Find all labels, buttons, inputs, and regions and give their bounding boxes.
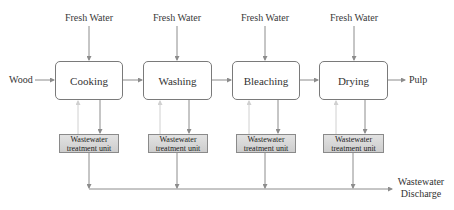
process-label: Cooking bbox=[70, 75, 108, 87]
process-label: Washing bbox=[158, 75, 196, 87]
pulp-output-label: Pulp bbox=[409, 74, 427, 85]
treatment-unit-drying: Wastewater treatment unit bbox=[323, 134, 384, 153]
discharge-label-line1: Wastewater bbox=[397, 176, 445, 188]
process-bleaching: Bleaching bbox=[232, 61, 300, 100]
treatment-unit-line2: treatment unit bbox=[149, 145, 207, 154]
process-label: Bleaching bbox=[244, 75, 289, 87]
treatment-unit-bleaching: Wastewater treatment unit bbox=[236, 134, 296, 153]
process-cooking: Cooking bbox=[55, 61, 123, 100]
treatment-unit-line2: treatment unit bbox=[60, 145, 118, 154]
wastewater-discharge-label: Wastewater Discharge bbox=[397, 176, 445, 200]
flow-connectors bbox=[0, 0, 454, 210]
treatment-unit-washing: Wastewater treatment unit bbox=[148, 134, 208, 153]
process-label: Drying bbox=[338, 75, 369, 87]
process-drying: Drying bbox=[319, 61, 388, 100]
fresh-water-label-cooking: Fresh Water bbox=[65, 12, 113, 23]
fresh-water-label-drying: Fresh Water bbox=[330, 12, 378, 23]
wood-input-label: Wood bbox=[9, 74, 33, 85]
treatment-unit-cooking: Wastewater treatment unit bbox=[59, 134, 119, 153]
fresh-water-label-bleaching: Fresh Water bbox=[241, 12, 289, 23]
fresh-water-label-washing: Fresh Water bbox=[153, 12, 201, 23]
treatment-unit-line2: treatment unit bbox=[324, 145, 383, 154]
discharge-label-line2: Discharge bbox=[397, 188, 445, 200]
treatment-unit-line2: treatment unit bbox=[237, 145, 295, 154]
process-washing: Washing bbox=[143, 61, 212, 100]
